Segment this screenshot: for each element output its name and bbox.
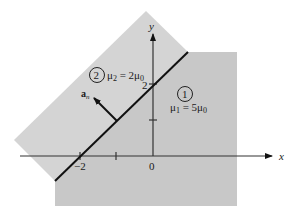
diagram-canvas: x y 0 −2 2 2 μ2 = 2μ0 1 μ1 = 5μ0 an	[0, 0, 301, 215]
x-tick-label-minus-2: −2	[74, 160, 86, 172]
origin-label: 0	[149, 160, 155, 172]
region-1-number: 1	[182, 88, 188, 100]
region-1-permeability: μ1 = 5μ0	[170, 101, 207, 115]
region-2-number: 2	[94, 69, 100, 81]
x-axis-label: x	[278, 150, 284, 162]
region-2-permeability: μ2 = 2μ0	[107, 69, 144, 83]
y-axis-label: y	[148, 20, 154, 32]
